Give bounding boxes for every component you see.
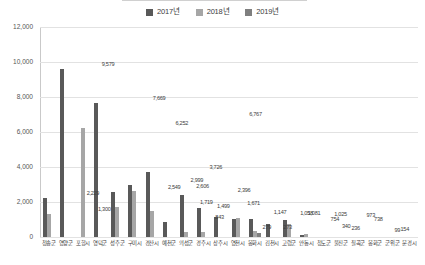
chart-legend: 2017년2018년2019년 <box>0 4 425 20</box>
bar-wrapper <box>85 27 89 237</box>
x-axis-label: 청도군 <box>317 241 331 247</box>
bar-group[interactable] <box>298 27 315 237</box>
x-axis-label: 안동시 <box>299 241 313 247</box>
bar-wrapper <box>154 27 158 237</box>
x-axis-label: 구미시 <box>128 241 142 247</box>
y-axis-tick-label: 10,000 <box>0 59 33 66</box>
bar-group[interactable] <box>195 27 212 237</box>
legend-label: 2018년 <box>207 8 230 16</box>
bar-wrapper <box>136 27 140 237</box>
x-axis-label: 김천시 <box>265 241 279 247</box>
legend-item-2019년[interactable]: 2019년 <box>245 8 279 16</box>
bar-wrapper <box>274 27 278 237</box>
x-axis-label: 청송군 <box>42 241 56 247</box>
bar-group[interactable] <box>349 27 366 237</box>
bar-wrapper <box>240 27 244 237</box>
y-axis-tick-label: 2,000 <box>0 199 33 206</box>
legend-swatch-icon <box>245 9 252 16</box>
bar-group[interactable] <box>40 27 57 237</box>
legend-swatch-icon <box>196 9 203 16</box>
x-axis-labels: 청송군영양군포항시영덕군성주군구미시경산시예천군의성군경주시상주시영천시봉화시김… <box>40 241 418 261</box>
legend-swatch-icon <box>146 9 153 16</box>
x-axis-label: 영양군 <box>59 241 73 247</box>
bar-group[interactable] <box>143 27 160 237</box>
bar-group[interactable] <box>160 27 177 237</box>
bar-group[interactable] <box>177 27 194 237</box>
bar-wrapper <box>343 27 347 237</box>
bar-group[interactable] <box>384 27 401 237</box>
x-axis-label: 영천시 <box>231 241 245 247</box>
x-axis-label: 경주시 <box>196 241 210 247</box>
legend-item-2017년[interactable]: 2017년 <box>146 8 180 16</box>
gridline <box>40 237 418 238</box>
y-axis-tick-label: 6,000 <box>0 129 33 136</box>
x-axis-label: 상주시 <box>213 241 227 247</box>
bar-wrapper <box>291 27 295 237</box>
bar-wrapper <box>119 27 123 237</box>
bar-wrapper <box>325 27 329 237</box>
x-axis-label: 포항시 <box>76 241 90 247</box>
bar-group[interactable] <box>315 27 332 237</box>
y-axis-tick-label: 8,000 <box>0 94 33 101</box>
x-axis-label: 고령군 <box>282 241 296 247</box>
y-axis-tick-label: 12,000 <box>0 24 33 31</box>
legend-label: 2017년 <box>157 8 180 16</box>
x-axis-label: 의성군 <box>179 241 193 247</box>
bar-group[interactable] <box>332 27 349 237</box>
bar-wrapper <box>377 27 381 237</box>
bar-group[interactable] <box>401 27 418 237</box>
bar-wrapper <box>394 27 398 237</box>
x-axis-label: 봉화시 <box>248 241 262 247</box>
bar-wrapper <box>308 27 312 237</box>
legend-item-2018년[interactable]: 2018년 <box>196 8 230 16</box>
x-axis-label: 칠곡군 <box>351 241 365 247</box>
bar-wrapper <box>188 27 192 237</box>
chart-top-rule <box>122 0 307 1</box>
bar-group[interactable] <box>109 27 126 237</box>
x-axis-label: 문경시 <box>402 241 416 247</box>
bar-wrapper <box>205 27 209 237</box>
bar-wrapper <box>360 27 364 237</box>
bar-wrapper <box>68 27 72 237</box>
bar-wrapper <box>411 27 415 237</box>
x-axis-label: 울진군 <box>334 241 348 247</box>
x-axis-label: 예천군 <box>162 241 176 247</box>
bar-2019년[interactable] <box>257 233 261 237</box>
x-axis-label: 군위군 <box>385 241 399 247</box>
bar-wrapper <box>51 27 55 237</box>
x-axis-label: 영덕군 <box>93 241 107 247</box>
bar-chart: 2017년2018년2019년 12,00010,0008,0006,0004,… <box>0 0 425 265</box>
bar-group[interactable] <box>74 27 91 237</box>
bar-group[interactable] <box>126 27 143 237</box>
bar-group[interactable] <box>263 27 280 237</box>
x-axis-label: 경산시 <box>145 241 159 247</box>
bar-group[interactable] <box>366 27 383 237</box>
bar-group[interactable] <box>57 27 74 237</box>
bar-group[interactable] <box>281 27 298 237</box>
plot-area: 12,00010,0008,0006,0004,0002,00009,5797,… <box>40 27 418 238</box>
legend-label: 2019년 <box>256 8 279 16</box>
bar-wrapper <box>171 27 175 237</box>
y-axis-tick-label: 0 <box>0 234 33 241</box>
x-axis-label: 성주군 <box>110 241 124 247</box>
x-axis-label: 봉화군 <box>368 241 382 247</box>
y-axis-tick-label: 4,000 <box>0 164 33 171</box>
bar-group[interactable] <box>229 27 246 237</box>
